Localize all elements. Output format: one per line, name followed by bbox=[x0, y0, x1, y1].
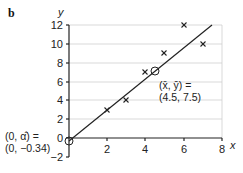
x-tick-labels: 2 4 6 8 bbox=[104, 143, 225, 155]
point-marker bbox=[162, 51, 167, 56]
y-tick-labels: 12 10 8 6 4 2 0 −2 bbox=[50, 19, 63, 163]
svg-text:0: 0 bbox=[57, 132, 63, 144]
mean-annotation-line2: (4.5, 7.5) bbox=[159, 91, 201, 103]
panel-label: b bbox=[8, 6, 15, 20]
svg-text:6: 6 bbox=[57, 76, 63, 88]
mean-annotation-line1: (x̄, ȳ) = bbox=[159, 79, 191, 91]
scatter-chart: b y 12 10 8 6 4 2 0 −2 bbox=[0, 0, 243, 173]
svg-text:6: 6 bbox=[181, 143, 187, 155]
svg-text:10: 10 bbox=[51, 38, 63, 50]
svg-text:4: 4 bbox=[57, 94, 63, 106]
point-marker bbox=[105, 108, 110, 113]
svg-text:8: 8 bbox=[219, 143, 225, 155]
svg-text:12: 12 bbox=[51, 19, 63, 31]
gridlines bbox=[69, 25, 222, 138]
y-axis-label: y bbox=[57, 6, 65, 18]
x-axis-label: x bbox=[229, 139, 236, 151]
svg-text:4: 4 bbox=[142, 143, 148, 155]
svg-text:2: 2 bbox=[104, 143, 110, 155]
intercept-annotation-line2: (0, −0.34) bbox=[5, 142, 50, 154]
point-marker bbox=[143, 70, 148, 75]
intercept-annotation-line1: (0, α̂) = bbox=[5, 130, 39, 142]
svg-text:−2: −2 bbox=[50, 151, 63, 163]
svg-text:8: 8 bbox=[57, 57, 63, 69]
svg-text:2: 2 bbox=[57, 113, 63, 125]
